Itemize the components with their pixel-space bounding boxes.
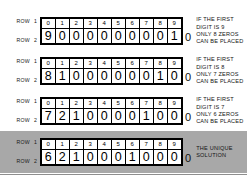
value-cell: 0 — [126, 69, 139, 83]
value-cell: 0 — [98, 69, 111, 83]
value-cell: 1 — [70, 109, 83, 123]
explanation-note: IF THE FIRST DIGIT IS 7 ONLY 6 ZEROS CAN… — [191, 96, 247, 126]
value-cell: 0 — [84, 109, 97, 123]
value-cell: 0 — [112, 150, 125, 164]
index-cell: 1 — [56, 19, 69, 28]
value-cell: 0 — [84, 29, 97, 43]
trailing-zero: 0 — [185, 32, 191, 43]
index-cell: 0 — [42, 59, 55, 68]
index-cell: 6 — [126, 19, 139, 28]
index-cell: 4 — [98, 19, 111, 28]
grid-wrapper: 0 1 2 3 4 5 6 7 8 9 8 1 0 0 0 0 — [40, 57, 191, 85]
note-line: THE UNIQUE — [196, 145, 247, 152]
index-cell: 5 — [112, 140, 125, 149]
index-cell: 2 — [70, 59, 83, 68]
row-label-1-number: 1 — [33, 140, 38, 145]
digit-grid: 0 1 2 3 4 5 6 7 8 9 7 2 1 0 0 0 — [40, 97, 183, 125]
index-cell: 9 — [168, 99, 181, 108]
value-cell: 1 — [154, 69, 167, 83]
value-cell: 0 — [70, 69, 83, 83]
row-label-column: ROW 1 ROW 2 — [0, 52, 40, 90]
puzzle-block-7: ROW 1 ROW 2 0 1 2 3 4 5 6 7 8 — [0, 92, 247, 130]
row-label-column: ROW 1 ROW 2 — [0, 92, 40, 130]
row-label-1-caption: ROW — [17, 59, 30, 64]
index-cell: 8 — [154, 99, 167, 108]
value-cell: 0 — [84, 69, 97, 83]
row-label-1-caption: ROW — [17, 140, 30, 145]
bottom-divider — [0, 174, 247, 175]
row-label-2-number: 2 — [33, 78, 38, 83]
row-label-1: ROW 1 — [4, 52, 40, 71]
index-cell: 9 — [168, 59, 181, 68]
index-cell: 2 — [70, 140, 83, 149]
value-cell: 9 — [42, 29, 55, 43]
index-cell: 7 — [140, 140, 153, 149]
note-line: IF THE FIRST — [196, 56, 247, 63]
digit-grid: 0 1 2 3 4 5 6 7 8 9 6 2 1 0 0 0 — [40, 138, 183, 166]
index-cell: 4 — [98, 140, 111, 149]
value-cell: 0 — [84, 150, 97, 164]
value-cell: 0 — [168, 150, 181, 164]
note-line: CAN BE PLACED — [196, 38, 247, 45]
value-cell: 6 — [42, 150, 55, 164]
trailing-zero: 0 — [185, 153, 191, 164]
index-cell: 6 — [126, 140, 139, 149]
index-cell: 3 — [84, 59, 97, 68]
row-label-1: ROW 1 — [4, 133, 40, 152]
puzzle-block-8: ROW 1 ROW 2 0 1 2 3 4 5 6 7 8 — [0, 52, 247, 90]
row-label-2-caption: ROW — [17, 159, 30, 164]
row-label-2-number: 2 — [33, 118, 38, 123]
row-label-column: ROW 1 ROW 2 — [0, 133, 40, 171]
value-row: 8 1 0 0 0 0 0 0 1 0 — [42, 69, 181, 83]
puzzle-block-solution: ROW 1 ROW 2 0 1 2 3 4 5 6 7 8 — [0, 131, 247, 173]
value-cell: 1 — [126, 150, 139, 164]
value-cell: 0 — [140, 150, 153, 164]
index-cell: 5 — [112, 19, 125, 28]
value-row: 9 0 0 0 0 0 0 0 0 1 — [42, 29, 181, 43]
index-row: 0 1 2 3 4 5 6 7 8 9 — [42, 19, 181, 28]
value-cell: 0 — [112, 69, 125, 83]
value-cell: 0 — [126, 109, 139, 123]
grid-wrapper: 0 1 2 3 4 5 6 7 8 9 7 2 1 0 0 0 — [40, 97, 191, 125]
explanation-note: IF THE FIRST DIGIT IS 9 ONLY 8 ZEROS CAN… — [191, 16, 247, 46]
self-descriptive-number-figure: ROW 1 ROW 2 0 1 2 3 4 5 6 7 8 — [0, 0, 247, 179]
grid-wrapper: 0 1 2 3 4 5 6 7 8 9 6 2 1 0 0 0 — [40, 138, 191, 166]
index-cell: 1 — [56, 140, 69, 149]
index-cell: 9 — [168, 19, 181, 28]
row-label-1-number: 1 — [33, 59, 38, 64]
index-cell: 7 — [140, 99, 153, 108]
note-line: DIGIT IS 9 — [196, 24, 247, 31]
explanation-note: IF THE FIRST DIGIT IS 8 ONLY 7 ZEROS CAN… — [191, 56, 247, 86]
index-cell: 6 — [126, 99, 139, 108]
value-cell: 7 — [42, 109, 55, 123]
value-cell: 0 — [154, 150, 167, 164]
index-cell: 5 — [112, 99, 125, 108]
note-line: ONLY 7 ZEROS — [196, 71, 247, 78]
note-line: CAN BE PLACED — [196, 78, 247, 85]
value-cell: 2 — [56, 150, 69, 164]
note-line: DIGIT IS 7 — [196, 104, 247, 111]
note-line: IF THE FIRST — [196, 16, 247, 23]
puzzle-block-9: ROW 1 ROW 2 0 1 2 3 4 5 6 7 8 — [0, 12, 247, 50]
value-row: 6 2 1 0 0 0 1 0 0 0 — [42, 150, 181, 164]
index-cell: 8 — [154, 19, 167, 28]
value-cell: 0 — [70, 29, 83, 43]
value-cell: 0 — [98, 29, 111, 43]
index-cell: 3 — [84, 19, 97, 28]
row-label-2: ROW 2 — [4, 71, 40, 90]
trailing-zero: 0 — [185, 72, 191, 83]
index-cell: 1 — [56, 59, 69, 68]
row-label-2: ROW 2 — [4, 31, 40, 50]
value-cell: 0 — [168, 69, 181, 83]
row-label-1: ROW 1 — [4, 12, 40, 31]
value-cell: 0 — [56, 29, 69, 43]
index-cell: 0 — [42, 99, 55, 108]
value-cell: 0 — [168, 109, 181, 123]
value-cell: 0 — [140, 69, 153, 83]
note-line: ONLY 6 ZEROS — [196, 111, 247, 118]
note-line: IF THE FIRST — [196, 96, 247, 103]
value-row: 7 2 1 0 0 0 0 1 0 0 — [42, 109, 181, 123]
trailing-zero: 0 — [185, 112, 191, 123]
index-cell: 9 — [168, 140, 181, 149]
value-cell: 1 — [140, 109, 153, 123]
